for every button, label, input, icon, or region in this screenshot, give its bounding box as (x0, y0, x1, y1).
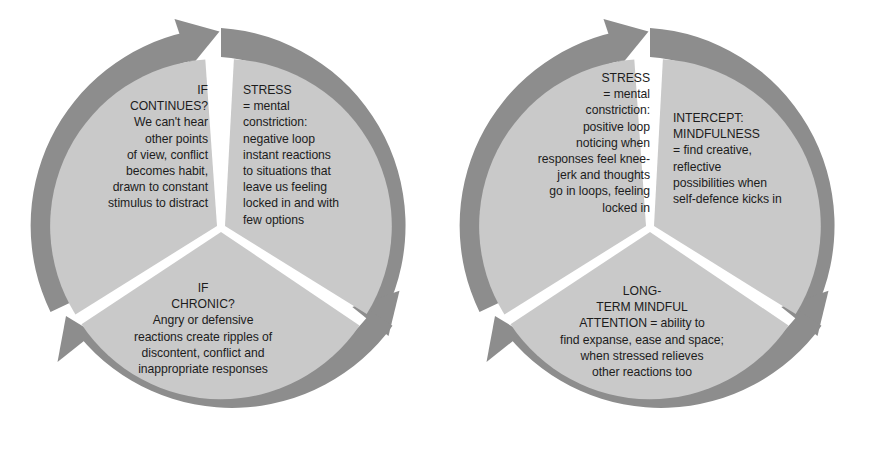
mindfulness-cycle-graphic (440, 0, 883, 450)
diagram-canvas: IF CONTINUES? We can't hear other points… (0, 0, 883, 450)
stress-segment-if-chronic: IF CHRONIC? Angry or defensive reactions… (58, 280, 348, 377)
mindfulness-segment-intercept: INTERCEPT: MINDFULNESS = find creative, … (673, 110, 863, 207)
stress-segment-stress: STRESS = mental constriction: negative l… (243, 82, 431, 228)
stress-segment-if-continues: IF CONTINUES? We can't hear other points… (16, 82, 208, 212)
stress-cycle-diagram: IF CONTINUES? We can't hear other points… (0, 0, 443, 450)
mindfulness-segment-stress: STRESS = mental constriction: positive l… (458, 70, 650, 216)
mindfulness-cycle-diagram: STRESS = mental constriction: positive l… (440, 0, 883, 450)
mindfulness-segment-long-term: LONG- TERM MINDFUL ATTENTION = ability t… (492, 283, 792, 380)
